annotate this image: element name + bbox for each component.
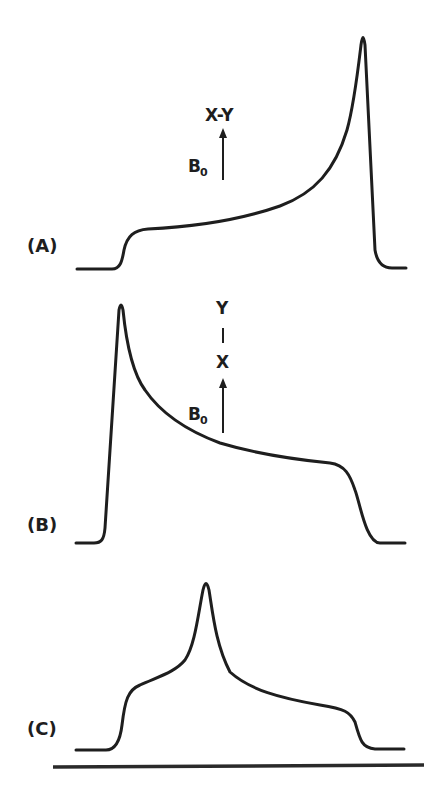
field-subscript-a: 0 (200, 166, 208, 179)
orientation-top-b: Y (215, 298, 229, 318)
panel-c: (C) (27, 584, 404, 751)
spectrum-curve-a (77, 38, 406, 270)
panel-b: (B) Y X B 0 (27, 298, 405, 543)
spectrum-curve-b (76, 305, 405, 543)
panel-label-c: (C) (27, 718, 57, 739)
powder-pattern-figure: (A) X-Y B 0 (B) Y X B 0 (C) (0, 0, 445, 796)
field-subscript-b: 0 (200, 414, 208, 427)
panel-a: (A) X-Y B 0 (27, 38, 406, 270)
field-axis-rule (53, 765, 424, 767)
panel-label-b: (B) (27, 514, 57, 535)
panel-label-a: (A) (27, 235, 57, 256)
spectrum-curve-c (76, 584, 404, 751)
orientation-label-a: X-Y (205, 105, 234, 125)
arrowhead-icon (219, 128, 227, 138)
arrowhead-icon (219, 378, 227, 388)
orientation-bottom-b: X (216, 352, 229, 372)
